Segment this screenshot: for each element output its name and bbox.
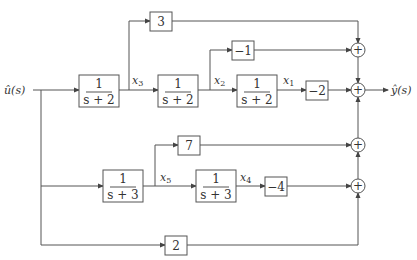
- tf-block-5: 1 s + 3: [196, 170, 236, 202]
- svg-text:2: 2: [172, 239, 180, 253]
- gain-block-7: 7: [178, 136, 200, 155]
- gain-block-minus-1: −1: [232, 41, 254, 60]
- svg-text:1: 1: [95, 77, 103, 91]
- summing-junction-3: +: [351, 138, 365, 152]
- svg-text:−2: −2: [308, 84, 326, 98]
- svg-text:s + 2: s + 2: [83, 93, 114, 107]
- tf-block-2: 1 s + 2: [158, 75, 198, 107]
- tf-block-4: 1 s + 3: [103, 170, 143, 202]
- svg-text:+: +: [353, 43, 363, 57]
- svg-text:1: 1: [174, 77, 182, 91]
- svg-text:+: +: [353, 138, 363, 152]
- svg-text:s + 2: s + 2: [241, 93, 272, 107]
- svg-text:s + 3: s + 3: [200, 188, 231, 202]
- svg-text:7: 7: [185, 139, 193, 153]
- tf-block-1: 1 s + 2: [79, 75, 119, 107]
- gain-block-2: 2: [165, 236, 187, 255]
- block-diagram: û(s) ŷ(s) x3 x2 x1 x5 x4 1 s + 2 1 s + 2…: [0, 0, 417, 260]
- signal-x1-label: x1: [283, 74, 294, 88]
- svg-text:1: 1: [119, 172, 127, 186]
- svg-text:s + 2: s + 2: [162, 93, 193, 107]
- signal-x5-label: x5: [160, 171, 171, 185]
- tf-block-3: 1 s + 2: [237, 75, 277, 107]
- svg-text:+: +: [353, 83, 363, 97]
- svg-text:−4: −4: [267, 180, 285, 194]
- signal-x2-label: x2: [214, 74, 225, 88]
- summing-junction-4: +: [351, 179, 365, 193]
- svg-text:−1: −1: [234, 44, 252, 58]
- gain-block-minus-4: −4: [265, 177, 287, 196]
- input-label: û(s): [4, 84, 25, 97]
- summing-junction-2: +: [351, 83, 365, 97]
- svg-text:s + 3: s + 3: [107, 188, 138, 202]
- output-label: ŷ(s): [390, 84, 411, 97]
- gain-block-3: 3: [150, 12, 172, 31]
- summing-junction-1: +: [351, 43, 365, 57]
- svg-text:+: +: [353, 179, 363, 193]
- svg-text:1: 1: [253, 77, 261, 91]
- gain-block-minus-2: −2: [306, 81, 328, 100]
- signal-x3-label: x3: [132, 74, 143, 88]
- signal-x4-label: x4: [240, 171, 251, 185]
- svg-text:1: 1: [212, 172, 220, 186]
- wires: [33, 21, 388, 245]
- svg-text:3: 3: [157, 15, 165, 29]
